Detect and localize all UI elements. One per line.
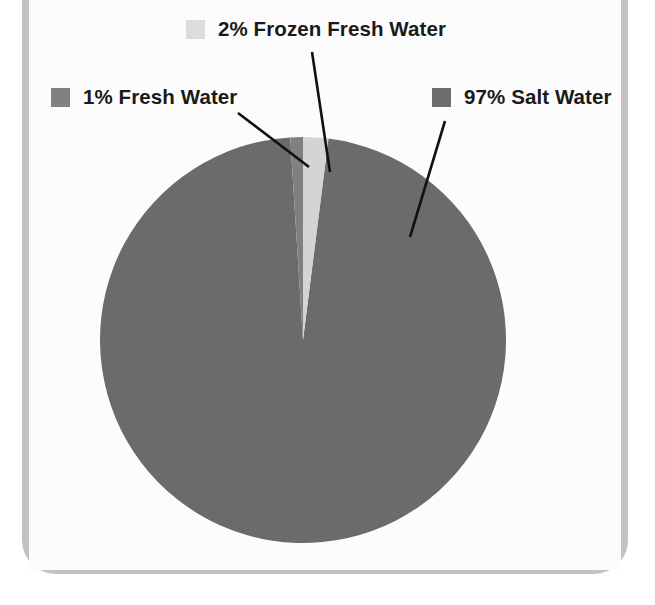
legend-swatch-salt-water xyxy=(432,88,451,107)
legend-swatch-fresh-water xyxy=(51,88,70,107)
legend-item-salt-water[interactable]: 97% Salt Water xyxy=(432,87,612,108)
pie-svg xyxy=(100,137,506,543)
legend-item-fresh-water[interactable]: 1% Fresh Water xyxy=(51,87,237,108)
legend-label-frozen-fresh-water: 2% Frozen Fresh Water xyxy=(218,19,446,40)
pie-chart-figure: 2% Frozen Fresh Water 1% Fresh Water 97%… xyxy=(0,0,655,605)
pie-chart xyxy=(100,137,506,543)
legend-label-fresh-water: 1% Fresh Water xyxy=(83,87,237,108)
legend-item-frozen-fresh-water[interactable]: 2% Frozen Fresh Water xyxy=(186,19,446,40)
legend-swatch-frozen-fresh-water xyxy=(186,20,205,39)
legend-label-salt-water: 97% Salt Water xyxy=(464,87,612,108)
